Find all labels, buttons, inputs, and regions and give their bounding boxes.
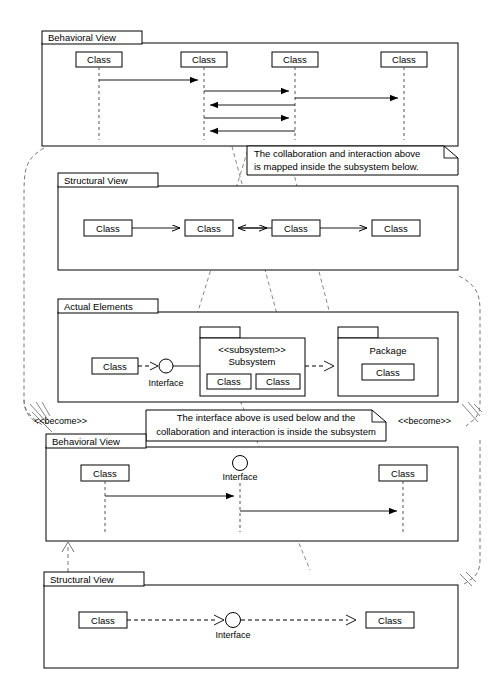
frame-label: Behavioral View <box>48 32 116 43</box>
subsystem-stereotype: <<subsystem>> <box>218 344 286 355</box>
note-line: is mapped inside the subsystem below. <box>254 161 419 172</box>
class-node-2: Class <box>272 220 320 236</box>
frame-structural-view-bottom: Structural View Class Interface Class <box>44 572 458 668</box>
note-line: collaboration and interaction is inside … <box>156 426 376 437</box>
frame-label: Structural View <box>64 175 128 186</box>
note-top: The collaboration and interaction above … <box>247 146 458 175</box>
actual-class-node: Class <box>92 358 138 374</box>
class-node-label: Class <box>384 223 408 234</box>
interface-label: Interface <box>215 630 250 640</box>
frame-label: Actual Elements <box>64 301 133 312</box>
lifeline-label: Class <box>93 468 117 479</box>
lifeline-label: Class <box>283 54 307 65</box>
become-rail-right <box>459 276 482 586</box>
class-node-label: Class <box>376 367 400 378</box>
class-node-label: Class <box>96 223 120 234</box>
frame-behavioral-view-bottom: Behavioral View Class Interface Class <box>46 434 458 541</box>
package-label: Package <box>370 345 407 356</box>
class-node-0: Class <box>79 612 127 628</box>
class-node-label: Class <box>378 615 402 626</box>
lifeline-label: Class <box>391 468 415 479</box>
note-line: The collaboration and interaction above <box>254 148 420 159</box>
frame-label: Structural View <box>50 574 114 585</box>
frame-actual-elements: Actual Elements Class Interface <<subsys… <box>58 299 458 402</box>
uml-view-mapping-diagram: Behavioral View Class Class Class Class <box>0 0 495 694</box>
class-node-2: Class <box>366 612 414 628</box>
frame-behavioral-view-top: Behavioral View Class Class Class Class <box>42 31 458 146</box>
become-arrow-bottom-left <box>62 542 74 572</box>
class-node-1: Class <box>185 220 233 236</box>
frame-label: Behavioral View <box>52 436 120 447</box>
class-node-3: Class <box>372 220 420 236</box>
class-node-label: Class <box>217 376 241 387</box>
subsystem-child-0: Class <box>207 374 251 389</box>
note-bottom: The interface above is used below and th… <box>146 410 386 441</box>
package-child-0: Class <box>362 364 414 380</box>
diagram-canvas: Behavioral View Class Class Class Class <box>0 0 495 694</box>
note-line: The interface above is used below and th… <box>177 412 356 423</box>
class-node-label: Class <box>266 376 290 387</box>
subsystem-child-1: Class <box>256 374 300 389</box>
interface-label: Interface <box>222 472 257 482</box>
subsystem-label: Subsystem <box>229 356 276 367</box>
become-rail-left <box>24 148 52 432</box>
class-node-label: Class <box>91 615 115 626</box>
lifeline-label: Class <box>392 54 416 65</box>
class-node-label: Class <box>197 223 221 234</box>
class-node-0: Class <box>84 220 132 236</box>
lifeline-label: Class <box>87 54 111 65</box>
class-node-label: Class <box>284 223 308 234</box>
become-label-left: <<become>> <box>34 416 87 426</box>
interface-label: Interface <box>148 378 183 388</box>
become-label-right: <<become>> <box>398 416 451 426</box>
frame-structural-view-top: Structural View Class Class Class Class <box>58 173 458 270</box>
lifeline-label: Class <box>192 54 216 65</box>
class-node-label: Class <box>103 361 127 372</box>
